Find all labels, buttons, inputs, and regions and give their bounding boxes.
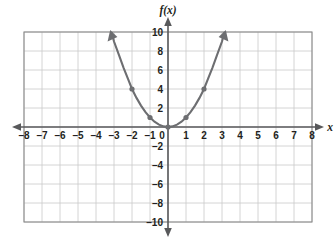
y-tick-label: 4 <box>157 84 163 95</box>
x-tick-label: 1 <box>183 130 189 141</box>
x-tick-label: 8 <box>309 130 315 141</box>
x-tick-label: 3 <box>219 130 225 141</box>
x-tick-label: –6 <box>54 130 66 141</box>
datapoint <box>147 115 152 120</box>
y-tick-label: 2 <box>157 103 163 114</box>
x-tick-label: –7 <box>36 130 48 141</box>
y-tick-label: –4 <box>152 160 164 171</box>
x-tick-label: 5 <box>255 130 261 141</box>
x-tick-label: –1 <box>144 130 156 141</box>
datapoint <box>129 86 134 91</box>
x-tick-label: 7 <box>291 130 297 141</box>
datapoint <box>201 86 206 91</box>
datapoint <box>165 124 170 129</box>
y-tick-label: 6 <box>157 65 163 76</box>
x-tick-label: –3 <box>108 130 120 141</box>
origin-label: 0 <box>159 130 165 141</box>
parabola-plot: –8 –7 –6 –5 –4 –3 –2 –1 0 1 2 3 4 5 6 7 … <box>0 0 336 239</box>
x-tick-label: 4 <box>237 130 243 141</box>
y-tick-label: –10 <box>146 217 163 228</box>
x-tick-label: –5 <box>72 130 84 141</box>
x-tick-label: 2 <box>201 130 207 141</box>
x-tick-label: –8 <box>18 130 30 141</box>
x-tick-label: –4 <box>90 130 102 141</box>
x-tick-label: –2 <box>126 130 138 141</box>
y-tick-label: –6 <box>152 179 164 190</box>
datapoint <box>183 115 188 120</box>
y-tick-label: –8 <box>152 198 164 209</box>
x-tick-label: 6 <box>273 130 279 141</box>
coordinate-graph: –8 –7 –6 –5 –4 –3 –2 –1 0 1 2 3 4 5 6 7 … <box>0 0 336 239</box>
y-tick-label: –2 <box>152 141 164 152</box>
y-tick-label: 10 <box>152 27 164 38</box>
y-tick-label: 8 <box>157 46 163 57</box>
y-axis-label: f(x) <box>159 4 176 17</box>
x-axis-label: x <box>326 121 333 133</box>
